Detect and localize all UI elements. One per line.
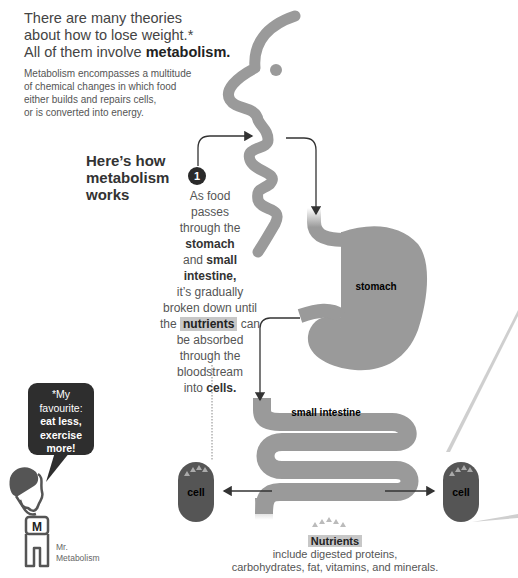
step-line: and <box>183 253 206 267</box>
eye-icon <box>270 64 282 76</box>
step-line: be absorbed <box>146 332 274 348</box>
arrow-to-stomach <box>286 138 316 214</box>
desc-line: either builds and repairs cells, <box>24 93 191 106</box>
shirt-letter: M <box>32 520 42 534</box>
desc-line: Metabolism encompasses a multitude <box>24 67 191 80</box>
stomach-label: stomach <box>355 281 396 292</box>
step-1-text: As food passes through the stomach and s… <box>146 188 274 396</box>
desc-line: or is converted into energy. <box>24 106 191 119</box>
bubble-line: more! <box>46 442 75 454</box>
intro-line-1: There are many theories <box>24 10 230 27</box>
character-name: Mr. Metabolism <box>56 542 99 563</box>
bubble-line: favourite: <box>32 402 90 416</box>
nutrients-line: carbohydrates, fat, vitamins, and minera… <box>200 561 470 574</box>
bubble-line: eat less, <box>40 415 81 427</box>
desc-line: of chemical changes in which food <box>24 80 191 93</box>
intro-keyword: metabolism. <box>146 44 231 60</box>
bubble-line: *My <box>32 388 90 402</box>
cell-right-label: cell <box>452 486 470 498</box>
small-keyword: small <box>206 253 237 267</box>
step-line: through the <box>146 220 274 236</box>
step-line: through the <box>146 348 274 364</box>
nutrients-title: Nutrients <box>308 535 362 547</box>
intro-line-2: about how to lose weight.* <box>24 27 230 44</box>
step-1-number: 1 <box>194 170 200 182</box>
mr-metabolism-character <box>9 467 48 566</box>
step-line: bloodstream <box>146 364 274 380</box>
arrow-to-mouth <box>198 136 252 166</box>
step-line: passes <box>146 204 274 220</box>
intestine-keyword: intestine, <box>184 269 237 283</box>
speech-bubble-text: *My favourite: eat less, exercise more! <box>32 388 90 456</box>
intro-heading: There are many theories about how to los… <box>24 10 230 61</box>
step-line: As food <box>146 188 274 204</box>
zoom-beam-top <box>446 310 518 452</box>
nutrients-highlight: nutrients <box>180 317 237 331</box>
cells-keyword: cells. <box>206 381 236 395</box>
cell-left-label: cell <box>187 486 205 498</box>
character-name-line: Mr. <box>56 542 99 553</box>
small-intestine-label: small intestine <box>291 407 361 418</box>
heading-line: Here’s how <box>86 152 169 169</box>
step-line: the <box>160 317 180 331</box>
nutrients-line: include digested proteins, <box>200 548 470 561</box>
heading-line: metabolism <box>86 169 169 186</box>
intro-line-3: All of them involve metabolism. <box>24 44 230 61</box>
metabolism-description: Metabolism encompasses a multitude of ch… <box>24 67 191 119</box>
bubble-line: exercise <box>40 429 82 441</box>
zoom-beam-bottom <box>472 514 518 522</box>
nutrients-caption: Nutrients include digested proteins, car… <box>200 535 470 574</box>
step-line: into <box>184 381 207 395</box>
character-name-line: Metabolism <box>56 553 99 564</box>
intro-line-3-prefix: All of them involve <box>24 44 146 60</box>
stomach-keyword: stomach <box>185 237 234 251</box>
step-line: it’s gradually <box>146 284 274 300</box>
step-line: can <box>237 317 260 331</box>
nutrients-arrows-icon <box>312 517 346 527</box>
step-line: broken down until <box>146 300 274 316</box>
